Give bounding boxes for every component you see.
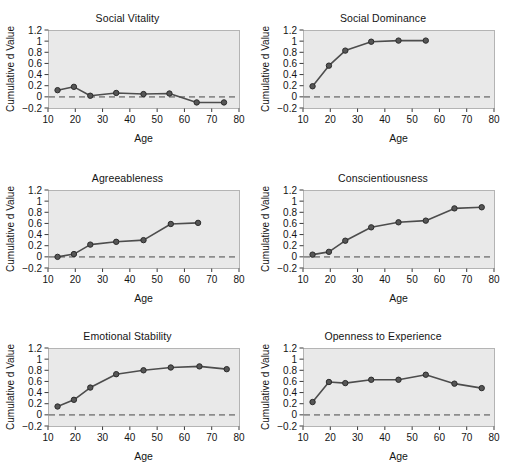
y-axis-tick-label: 0.4 [28, 229, 42, 240]
data-point-marker [423, 372, 428, 377]
y-axis-label: Cumulative d Value [260, 26, 271, 112]
y-axis-tick-label: 0.6 [283, 376, 297, 387]
data-point-marker [88, 93, 93, 98]
y-axis-tick-label: −0.2 [22, 263, 42, 274]
data-point-marker [423, 218, 428, 223]
x-axis-tick-label: 40 [379, 432, 391, 443]
y-axis-label: Cumulative d Value [5, 186, 16, 272]
y-axis-tick-label: 0 [291, 91, 297, 102]
y-axis-tick-label: 0.6 [283, 58, 297, 69]
data-point-marker [195, 220, 200, 225]
y-axis-label: Cumulative d Value [5, 344, 16, 430]
y-axis-tick-label: 0.2 [283, 80, 297, 91]
data-point-marker [479, 385, 484, 390]
x-axis-tick-label: 50 [407, 274, 419, 285]
data-point-marker [71, 84, 76, 89]
data-point-marker [114, 239, 119, 244]
x-axis-tick-label: 20 [70, 274, 82, 285]
data-point-marker [55, 404, 60, 409]
y-axis-tick-label: −0.2 [22, 103, 42, 114]
y-axis-tick-label: 1.2 [28, 185, 42, 196]
x-axis-tick-label: 40 [379, 274, 391, 285]
chart-canvas: 1.210.80.60.40.20−0.21020304050607080Age… [0, 318, 255, 475]
x-axis-label: Age [134, 450, 153, 462]
x-axis-tick-label: 50 [152, 274, 164, 285]
y-axis-tick-label: 0.2 [28, 80, 42, 91]
x-axis-tick-label: 30 [97, 114, 109, 125]
y-axis-tick-label: 1.2 [28, 25, 42, 36]
y-axis-tick-label: 1 [36, 354, 42, 365]
data-point-marker [310, 252, 315, 257]
x-axis-tick-label: 60 [179, 432, 191, 443]
y-axis-tick-label: 0.4 [283, 387, 297, 398]
x-axis-label: Age [389, 132, 408, 144]
chart-panel: Social Dominance1.210.80.60.40.20−0.2102… [255, 0, 511, 160]
x-axis-tick-label: 70 [206, 114, 218, 125]
x-axis-tick-label: 40 [379, 114, 391, 125]
data-point-marker [71, 397, 76, 402]
y-axis-tick-label: 0.4 [28, 387, 42, 398]
chart-panel: Social Vitality1.210.80.60.40.20−0.21020… [0, 0, 255, 160]
chart-canvas: 1.210.80.60.40.20−0.21020304050607080Age… [255, 318, 510, 475]
data-point-marker [194, 100, 199, 105]
x-axis-tick-label: 10 [42, 114, 54, 125]
data-point-marker [197, 364, 202, 369]
x-axis-label: Age [389, 292, 408, 304]
x-axis-tick-label: 60 [434, 274, 446, 285]
x-axis-tick-label: 70 [461, 432, 473, 443]
data-point-marker [326, 379, 331, 384]
chart-canvas: 1.210.80.60.40.20−0.21020304050607080Age… [0, 160, 255, 318]
y-axis-tick-label: 0.6 [28, 218, 42, 229]
y-axis-label: Cumulative d Value [260, 186, 271, 272]
x-axis-tick-label: 10 [297, 274, 309, 285]
y-axis-tick-label: 0.8 [283, 365, 297, 376]
multi-panel-chart-figure: Social Vitality1.210.80.60.40.20−0.21020… [0, 0, 511, 475]
y-axis-tick-label: 0 [36, 251, 42, 262]
data-point-marker [88, 242, 93, 247]
y-axis-tick-label: −0.2 [22, 421, 42, 432]
y-axis-tick-label: 0.4 [283, 229, 297, 240]
data-point-marker [141, 91, 146, 96]
x-axis-label: Age [134, 132, 153, 144]
x-axis-tick-label: 80 [233, 432, 245, 443]
x-axis-tick-label: 50 [407, 114, 419, 125]
x-axis-tick-label: 10 [297, 432, 309, 443]
y-axis-tick-label: 0.4 [28, 69, 42, 80]
data-point-marker [114, 90, 119, 95]
y-axis-label: Cumulative d Value [260, 344, 271, 430]
y-axis-tick-label: 0 [36, 409, 42, 420]
x-axis-tick-label: 80 [488, 114, 500, 125]
x-axis-tick-label: 10 [297, 114, 309, 125]
y-axis-tick-label: −0.2 [277, 103, 297, 114]
data-point-marker [168, 365, 173, 370]
y-axis-tick-label: 1.2 [283, 185, 297, 196]
data-point-marker [326, 249, 331, 254]
data-point-marker [224, 366, 229, 371]
x-axis-tick-label: 20 [325, 274, 337, 285]
data-point-marker [452, 206, 457, 211]
y-axis-tick-label: 0.8 [283, 207, 297, 218]
y-axis-tick-label: 1.2 [283, 25, 297, 36]
y-axis-tick-label: 0.2 [28, 240, 42, 251]
x-axis-tick-label: 80 [233, 274, 245, 285]
x-axis-label: Age [134, 292, 153, 304]
data-point-marker [369, 225, 374, 230]
chart-canvas: 1.210.80.60.40.20−0.21020304050607080Age… [255, 160, 510, 318]
y-axis-tick-label: 0.2 [28, 398, 42, 409]
data-point-marker [221, 100, 226, 105]
x-axis-tick-label: 60 [434, 432, 446, 443]
x-axis-tick-label: 30 [352, 274, 364, 285]
x-axis-tick-label: 70 [461, 274, 473, 285]
y-axis-tick-label: 0.8 [28, 207, 42, 218]
x-axis-tick-label: 60 [434, 114, 446, 125]
x-axis-tick-label: 20 [325, 114, 337, 125]
data-point-marker [452, 381, 457, 386]
data-point-marker [423, 38, 428, 43]
data-point-marker [396, 220, 401, 225]
y-axis-tick-label: 0 [291, 251, 297, 262]
x-axis-tick-label: 10 [42, 432, 54, 443]
data-point-marker [141, 237, 146, 242]
y-axis-tick-label: 0.8 [28, 365, 42, 376]
x-axis-tick-label: 80 [233, 114, 245, 125]
y-axis-tick-label: 0 [291, 409, 297, 420]
